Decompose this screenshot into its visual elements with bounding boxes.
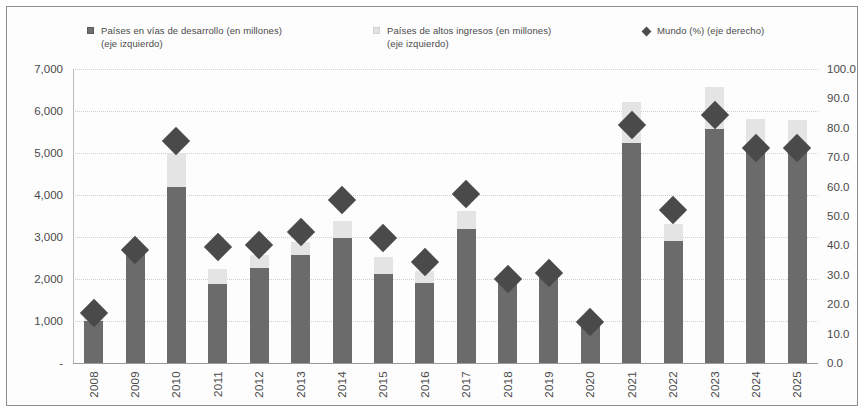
y-axis-tick-label: 3,000	[34, 231, 63, 243]
legend-label-developing-line1: Países en vías de desarrollo (en millone…	[101, 25, 282, 38]
bar-segment-developing	[664, 241, 683, 363]
y-axis-right-labels: 0.010.020.030.040.050.060.070.080.090.01…	[823, 69, 864, 363]
bar-column[interactable]	[498, 69, 517, 363]
legend-swatch-developing	[87, 27, 94, 34]
legend-item-world: Mundo (%) (eje derecho)	[657, 25, 764, 38]
bar-segment-developing	[167, 187, 186, 363]
bar-column[interactable]	[746, 69, 765, 363]
y2-axis-tick-label: 30.0	[827, 269, 849, 281]
y2-axis-tick-label: 20.0	[827, 298, 849, 310]
x-axis-tick-label: 2009	[129, 371, 141, 398]
bar-segment-developing	[415, 283, 434, 363]
y-axis-tick-label: 5,000	[34, 147, 63, 159]
bar-column[interactable]	[333, 69, 352, 363]
bar-segment-high-income	[208, 269, 227, 285]
bar-column[interactable]	[415, 69, 434, 363]
legend-item-high-income: Países de altos ingresos (en millones) (…	[387, 25, 551, 50]
bar-column[interactable]	[250, 69, 269, 363]
x-axis-tick-label: 2021	[626, 371, 638, 398]
bar-segment-developing	[333, 238, 352, 363]
y-axis-tick-label: -	[59, 357, 63, 369]
y2-axis-tick-label: 0.0	[827, 357, 843, 369]
x-axis-tick-label: 2010	[170, 371, 182, 398]
bar-column[interactable]	[374, 69, 393, 363]
y2-axis-tick-label: 50.0	[827, 210, 849, 222]
legend-label-high-income-line1: Países de altos ingresos (en millones)	[387, 25, 551, 38]
x-axis-tick-label: 2018	[502, 371, 514, 398]
legend-item-developing: Países en vías de desarrollo (en millone…	[101, 25, 282, 50]
plot-area: 2008200920102011201220132014201520162017…	[73, 69, 818, 363]
bar-segment-developing	[291, 255, 310, 363]
legend-label-high-income-line2: (eje izquierdo)	[387, 38, 551, 51]
y2-axis-tick-label: 80.0	[827, 122, 849, 134]
bar-segment-high-income	[457, 211, 476, 228]
y2-axis-tick-label: 10.0	[827, 328, 849, 340]
bar-segment-high-income	[333, 221, 352, 238]
legend-label-developing-line2: (eje izquierdo)	[101, 38, 282, 51]
bar-segment-developing	[539, 277, 558, 363]
x-axis-tick-label: 2023	[709, 371, 721, 398]
bar-segment-developing	[746, 150, 765, 363]
bar-segment-developing	[622, 143, 641, 364]
x-axis-tick-label: 2013	[295, 371, 307, 398]
y2-axis-tick-label: 40.0	[827, 239, 849, 251]
x-axis-tick-label: 2024	[750, 371, 762, 398]
bar-segment-developing	[498, 283, 517, 363]
legend-swatch-high-income	[373, 27, 380, 34]
legend-swatch-world-diamond-icon	[642, 27, 652, 37]
bar-segment-developing	[374, 274, 393, 363]
bar-segment-developing	[208, 284, 227, 363]
bar-segment-high-income	[374, 257, 393, 274]
x-axis-tick-label: 2017	[460, 371, 472, 398]
bar-segment-developing	[788, 150, 807, 363]
bar-column[interactable]	[539, 69, 558, 363]
y-axis-tick-label: 1,000	[34, 315, 63, 327]
gridline	[73, 363, 818, 364]
chart-frame: Países en vías de desarrollo (en millone…	[6, 6, 858, 406]
y-axis-tick-label: 4,000	[34, 189, 63, 201]
y2-axis-tick-label: 60.0	[827, 181, 849, 193]
y2-axis-tick-label: 90.0	[827, 92, 849, 104]
y-axis-tick-label: 6,000	[34, 105, 63, 117]
bar-segment-developing	[250, 268, 269, 363]
x-axis-tick-label: 2011	[212, 371, 224, 397]
bar-column[interactable]	[788, 69, 807, 363]
bar-segment-developing	[126, 254, 145, 363]
chart-legend: Países en vías de desarrollo (en millone…	[7, 23, 857, 63]
bar-column[interactable]	[208, 69, 227, 363]
x-axis-tick-label: 2016	[419, 371, 431, 398]
x-axis-tick-label: 2015	[377, 371, 389, 398]
x-axis-tick-label: 2020	[584, 371, 596, 398]
x-axis-tick-label: 2022	[667, 371, 679, 398]
x-axis-tick-label: 2012	[253, 371, 265, 398]
bar-segment-high-income	[664, 224, 683, 241]
bar-segment-developing	[705, 129, 724, 363]
bar-column[interactable]	[291, 69, 310, 363]
y-axis-tick-label: 2,000	[34, 273, 63, 285]
x-axis-tick-label: 2014	[336, 371, 348, 398]
x-axis-tick-label: 2019	[543, 371, 555, 398]
bar-segment-developing	[457, 229, 476, 363]
legend-label-world: Mundo (%) (eje derecho)	[657, 25, 764, 38]
y-axis-tick-label: 7,000	[34, 63, 63, 75]
y2-axis-tick-label: 70.0	[827, 151, 849, 163]
x-axis-tick-label: 2008	[88, 371, 100, 398]
y-axis-left-labels: -1,0002,0003,0004,0005,0006,0007,000	[7, 69, 67, 363]
y2-axis-tick-label: 100.0	[827, 63, 856, 75]
bar-column[interactable]	[167, 69, 186, 363]
bar-column[interactable]	[126, 69, 145, 363]
bar-column[interactable]	[457, 69, 476, 363]
bar-segment-high-income	[167, 153, 186, 187]
x-axis-tick-label: 2025	[791, 371, 803, 398]
